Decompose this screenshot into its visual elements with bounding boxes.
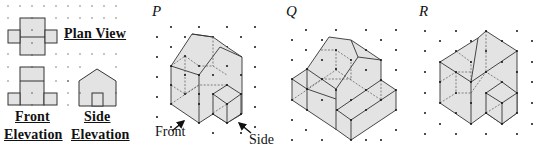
front-pointer-label: Front [155,125,185,139]
front-elevation-drawing [8,67,57,105]
option-r-drawing [424,30,533,135]
option-q-drawing [291,29,397,141]
plan-view-drawing [8,18,57,55]
plan-view-label: Plan View [64,27,126,41]
side-elevation-label-line2: Elevation [71,128,130,142]
side-pointer-label: Side [249,133,274,147]
front-elevation-label-line1: Front [15,110,50,124]
option-r-letter: R [419,4,428,19]
front-elevation-label-line2: Elevation [4,128,63,142]
option-p-drawing [156,26,256,134]
option-q-letter: Q [286,4,297,19]
option-p-letter: P [152,4,161,19]
side-elevation-drawing [79,69,116,106]
side-elevation-label-line1: Side [84,110,110,124]
